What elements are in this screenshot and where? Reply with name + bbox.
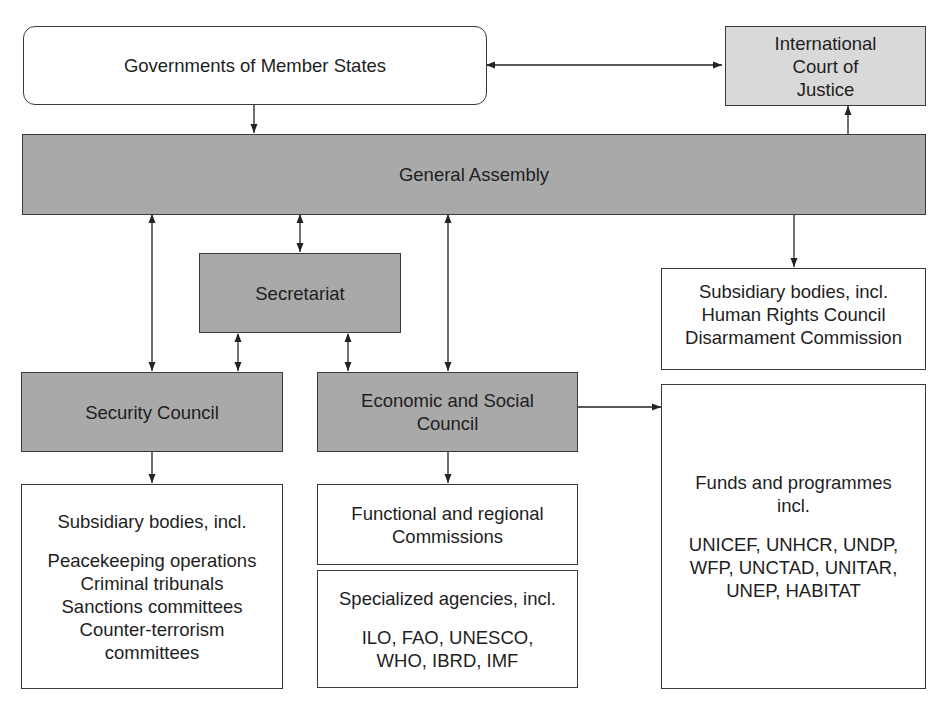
- ga-subsidiary-line-1: Subsidiary bodies, incl.: [699, 280, 888, 303]
- node-functional-regional-commissions: Functional and regional Commissions: [317, 484, 578, 565]
- sc-subsidiary-line-3: Sanctions committees: [62, 595, 243, 618]
- node-secretariat-label: Secretariat: [255, 282, 344, 305]
- node-icj-line-2: Court of: [793, 55, 859, 78]
- node-icj-line-3: Justice: [797, 78, 855, 101]
- node-ecosoc-line-1: Economic and Social: [361, 389, 534, 412]
- ga-subsidiary-line-2: Human Rights Council: [701, 303, 885, 326]
- sc-subsidiary-line-2: Criminal tribunals: [81, 572, 224, 595]
- funds-heading-line-1: Funds and programmes: [695, 471, 891, 494]
- sc-subsidiary-heading: Subsidiary bodies, incl.: [57, 510, 246, 533]
- node-specialized-agencies: Specialized agencies, incl. ILO, FAO, UN…: [317, 570, 578, 688]
- funds-heading-line-2: incl.: [777, 494, 810, 517]
- sc-subsidiary-line-5: committees: [105, 641, 200, 664]
- node-international-court-of-justice: International Court of Justice: [725, 26, 926, 106]
- node-sc-subsidiary-bodies: Subsidiary bodies, incl. Peacekeeping op…: [21, 484, 283, 689]
- commissions-line-1: Functional and regional: [351, 502, 543, 525]
- node-funds-and-programmes: Funds and programmes incl. UNICEF, UNHCR…: [661, 384, 926, 689]
- funds-line-2: WFP, UNCTAD, UNITAR,: [690, 556, 898, 579]
- node-security-council-label: Security Council: [85, 401, 219, 424]
- sc-subsidiary-line-4: Counter-terrorism: [80, 618, 225, 641]
- node-member-states-label: Governments of Member States: [124, 54, 386, 77]
- commissions-line-2: Commissions: [392, 525, 503, 548]
- sc-subsidiary-line-1: Peacekeeping operations: [48, 549, 257, 572]
- node-ecosoc-line-2: Council: [417, 412, 479, 435]
- node-ga-subsidiary-bodies: Subsidiary bodies, incl. Human Rights Co…: [661, 268, 926, 370]
- ga-subsidiary-line-3: Disarmament Commission: [685, 326, 902, 349]
- node-general-assembly: General Assembly: [22, 134, 926, 215]
- agencies-line-1: ILO, FAO, UNESCO,: [362, 626, 534, 649]
- node-icj-line-1: International: [775, 32, 877, 55]
- funds-line-1: UNICEF, UNHCR, UNDP,: [689, 533, 898, 556]
- node-security-council: Security Council: [21, 372, 283, 452]
- node-secretariat: Secretariat: [199, 253, 401, 333]
- node-member-states: Governments of Member States: [23, 26, 487, 105]
- node-economic-and-social-council: Economic and Social Council: [317, 372, 578, 452]
- agencies-heading: Specialized agencies, incl.: [339, 587, 556, 610]
- node-general-assembly-label: General Assembly: [399, 163, 549, 186]
- funds-line-3: UNEP, HABITAT: [726, 579, 861, 602]
- agencies-line-2: WHO, IBRD, IMF: [377, 649, 519, 672]
